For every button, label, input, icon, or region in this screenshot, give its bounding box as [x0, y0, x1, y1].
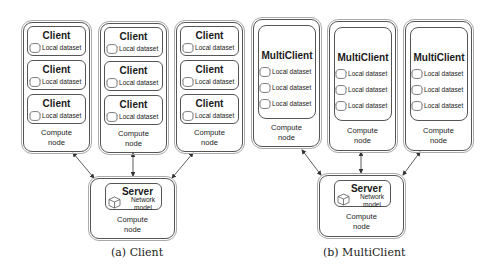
client-box: Client Local dataset	[104, 27, 163, 57]
server-box: Server Network model	[334, 180, 391, 207]
cube-icon	[337, 193, 350, 206]
client-box: Client Local dataset	[104, 61, 163, 91]
client-box: Client Local dataset	[27, 60, 86, 90]
compute-node-label: Compute node	[24, 128, 89, 148]
database-cylinder-icon	[411, 100, 423, 112]
dataset-label: Local dataset	[195, 112, 234, 120]
client-box: Client Local dataset	[104, 95, 163, 125]
database-cylinder-icon	[335, 84, 347, 96]
multiclient-title: MultiClient	[335, 52, 391, 63]
client-title: Client	[28, 64, 85, 75]
compute-node: Client Local dataset Client Local datase…	[100, 23, 167, 153]
database-cylinder-icon	[29, 76, 41, 88]
database-cylinder-icon	[106, 43, 118, 55]
caption-a: (a) Client	[111, 246, 163, 259]
database-cylinder-icon	[335, 68, 347, 80]
dataset-label: Local dataset	[424, 70, 463, 78]
server-compute-node: Server Network model Compute node	[90, 178, 175, 239]
database-cylinder-icon	[106, 77, 118, 89]
client-title: Client	[181, 64, 238, 75]
compute-node-label: Compute node	[101, 129, 166, 149]
caption-b: (b) MultiClient	[323, 246, 405, 259]
dataset-label: Local dataset	[348, 102, 387, 110]
dataset-label: Local dataset	[195, 78, 234, 86]
compute-node-label: Compute node	[177, 128, 242, 148]
client-box: Client Local dataset	[180, 60, 239, 90]
multiclient-box: MultiClient Local dataset Local dataset …	[334, 27, 392, 121]
compute-node: MultiClient Local dataset Local dataset …	[329, 21, 396, 151]
network-model-label: Network model	[357, 193, 387, 209]
dataset-label: Local dataset	[272, 84, 311, 92]
database-cylinder-icon	[182, 42, 194, 54]
client-box: Client Local dataset	[27, 94, 86, 124]
database-cylinder-icon	[106, 111, 118, 123]
client-box: Client Local dataset	[180, 26, 239, 56]
database-cylinder-icon	[29, 110, 41, 122]
dataset-label: Local dataset	[348, 70, 387, 78]
compute-node: MultiClient Local dataset Local dataset …	[253, 19, 320, 147]
client-title: Client	[28, 98, 85, 109]
dataset-label: Local dataset	[272, 100, 311, 108]
multiclient-title: MultiClient	[259, 50, 315, 61]
database-cylinder-icon	[259, 82, 271, 94]
database-cylinder-icon	[335, 100, 347, 112]
dataset-label: Local dataset	[42, 112, 81, 120]
dataset-label: Local dataset	[195, 44, 234, 52]
client-box: Client Local dataset	[27, 26, 86, 56]
multiclient-box: MultiClient Local dataset Local dataset …	[410, 27, 468, 121]
cube-icon	[108, 196, 121, 209]
database-cylinder-icon	[259, 98, 271, 110]
compute-node: Client Local dataset Client Local datase…	[176, 22, 243, 152]
database-cylinder-icon	[182, 76, 194, 88]
database-cylinder-icon	[29, 42, 41, 54]
client-box: Client Local dataset	[180, 94, 239, 124]
database-cylinder-icon	[182, 110, 194, 122]
server-box: Server Network model	[105, 183, 162, 210]
dataset-label: Local dataset	[119, 113, 158, 121]
dataset-label: Local dataset	[348, 86, 387, 94]
client-title: Client	[105, 65, 162, 76]
multiclient-box: MultiClient Local dataset Local dataset …	[258, 25, 316, 119]
dataset-label: Local dataset	[424, 102, 463, 110]
client-title: Client	[181, 30, 238, 41]
dataset-label: Local dataset	[272, 68, 311, 76]
client-title: Client	[105, 99, 162, 110]
dataset-label: Local dataset	[42, 44, 81, 52]
compute-node-label: Compute node	[330, 126, 395, 146]
compute-node-label: Compute node	[254, 123, 319, 143]
compute-node: Client Local dataset Client Local datase…	[23, 22, 90, 152]
dataset-label: Local dataset	[119, 45, 158, 53]
compute-node-label: Compute node	[406, 126, 471, 146]
dataset-label: Local dataset	[424, 86, 463, 94]
client-title: Client	[181, 98, 238, 109]
client-title: Client	[105, 31, 162, 42]
database-cylinder-icon	[259, 66, 271, 78]
client-title: Client	[28, 30, 85, 41]
database-cylinder-icon	[411, 68, 423, 80]
compute-node: MultiClient Local dataset Local dataset …	[405, 21, 472, 151]
network-model-label: Network model	[128, 196, 158, 212]
compute-node-label: Compute node	[91, 215, 174, 235]
dataset-label: Local dataset	[119, 79, 158, 87]
dataset-label: Local dataset	[42, 78, 81, 86]
database-cylinder-icon	[411, 84, 423, 96]
compute-node-label: Compute node	[320, 212, 403, 232]
server-compute-node: Server Network model Compute node	[319, 175, 404, 237]
multiclient-title: MultiClient	[411, 52, 467, 63]
